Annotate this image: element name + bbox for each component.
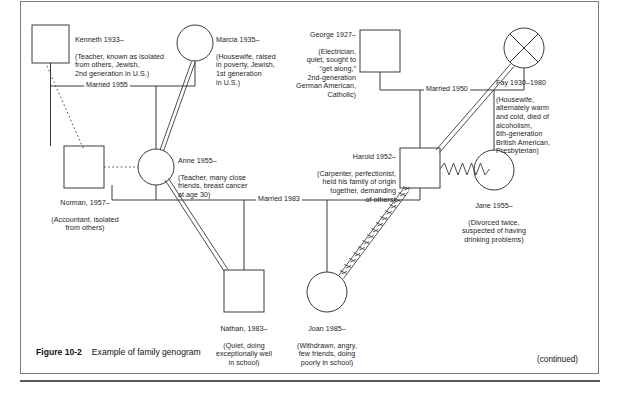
marriage-label-kenneth-marcia: Married 1955 xyxy=(84,81,130,90)
node-anne xyxy=(138,149,174,185)
label-fay: Fay 1930–1980 (Housewife, alternately wa… xyxy=(496,70,592,165)
label-norman-detail: (Accountant, isolated from others) xyxy=(24,216,146,233)
marriage-label-george-fay: Married 1950 xyxy=(424,85,470,94)
continued-note: (continued) xyxy=(0,355,578,364)
label-jane: Jane 1955– (Divorced twice, suspected of… xyxy=(436,193,552,253)
label-kenneth-detail: (Teacher, known as isolated from others,… xyxy=(75,53,225,79)
node-norman xyxy=(64,146,104,188)
label-jane-detail: (Divorced twice, suspected of having dri… xyxy=(436,219,552,245)
label-fay-detail: (Housewife, alternately warm and cold, d… xyxy=(496,96,592,156)
label-george: George 1927– (Electrician, quiet, sought… xyxy=(286,22,356,108)
node-kenneth xyxy=(32,25,69,63)
label-kenneth: Kenneth 1933– (Teacher, known as isolate… xyxy=(75,27,225,87)
figure-page: Kenneth 1933– (Teacher, known as isolate… xyxy=(0,0,620,407)
label-fay-name: Fay 1930–1980 xyxy=(496,79,592,88)
label-joan-name: Joan 1985– xyxy=(271,325,383,334)
label-george-name: George 1927– xyxy=(286,31,356,40)
label-norman: Norman, 1957– (Accountant, isolated from… xyxy=(24,190,146,242)
node-nathan xyxy=(224,270,264,312)
label-george-detail: (Electrician, quiet, sought to “get alon… xyxy=(286,48,356,100)
node-joan xyxy=(307,272,347,312)
node-harold xyxy=(400,148,440,188)
label-joan: Joan 1985– (Withdrawn, angry, few friend… xyxy=(271,316,383,376)
label-harold-name: Harold 1952– xyxy=(276,153,396,162)
label-anne-name: Anne 1955– xyxy=(178,157,290,166)
node-george xyxy=(360,30,400,72)
label-kenneth-name: Kenneth 1933– xyxy=(75,36,225,45)
label-norman-name: Norman, 1957– xyxy=(24,199,146,208)
marriage-label-anne-harold: Married 1983 xyxy=(256,195,302,204)
label-jane-name: Jane 1955– xyxy=(436,202,552,211)
